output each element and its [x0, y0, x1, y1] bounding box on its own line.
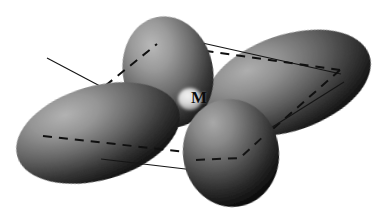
orbital-canvas — [0, 0, 387, 217]
center-atom-label: M — [191, 89, 207, 106]
orbital-figure: M — [0, 0, 387, 217]
